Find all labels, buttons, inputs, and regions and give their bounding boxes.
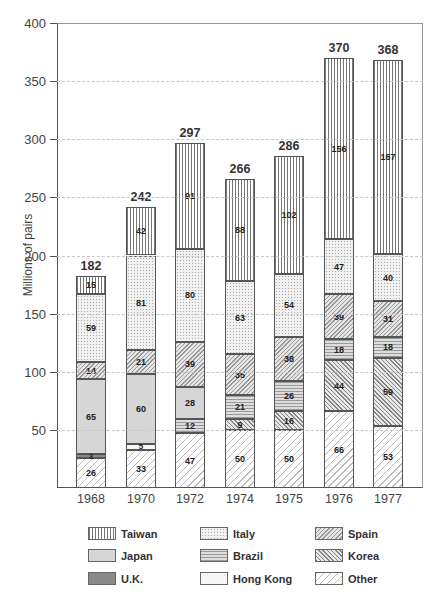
segment-value: 15 (86, 280, 96, 290)
segment-value: 31 (383, 314, 393, 324)
x-tick-label: 1968 (66, 492, 116, 506)
gridline (57, 314, 423, 315)
segment-italy: 63 (225, 281, 255, 354)
segment-taiwan: 88 (225, 179, 255, 281)
gridline (57, 197, 423, 198)
gridline (57, 139, 423, 140)
segment-other: 50 (225, 430, 255, 488)
y-tick-label: 200 (10, 248, 46, 263)
y-tick (50, 372, 57, 373)
legend-item-hong-kong: Hong Kong (200, 572, 292, 585)
segment-value: 33 (136, 464, 146, 474)
gridline (57, 256, 423, 257)
segment-hong-kong: 5 (126, 444, 156, 450)
segment-value: 38 (284, 354, 294, 364)
segment-japan: 28 (175, 387, 205, 420)
bar-total: 266 (215, 162, 265, 176)
legend-swatch (200, 527, 228, 540)
segment-value: 66 (334, 445, 344, 455)
segment-value: 21 (235, 402, 245, 412)
legend-label: Korea (348, 550, 379, 562)
y-tick-label: 250 (10, 190, 46, 205)
segment-value: 18 (383, 342, 393, 352)
y-tick (50, 197, 57, 198)
legend-swatch (88, 572, 116, 585)
segment-value: 21 (136, 357, 146, 367)
y-tick-label: 300 (10, 132, 46, 147)
segment-italy: 40 (373, 254, 403, 301)
segment-brazil: 26 (274, 381, 304, 411)
segment-taiwan: 42 (126, 207, 156, 256)
bar-1972: 4712283980912971972 (175, 0, 205, 603)
y-tick (50, 430, 57, 431)
segment-value: 28 (185, 398, 195, 408)
bar-1974: 509213563882661974 (225, 0, 255, 603)
segment-value: 60 (136, 404, 146, 414)
bar-total: 297 (165, 126, 215, 140)
segment-value: 65 (86, 412, 96, 422)
segment-spain: 31 (373, 301, 403, 337)
bar-1977: 53591831401673681977 (373, 0, 403, 603)
segment-value: 59 (86, 323, 96, 333)
x-tick-label: 1976 (314, 492, 364, 506)
segment-other: 33 (126, 450, 156, 488)
gridline (57, 372, 423, 373)
segment-value: 80 (185, 290, 195, 300)
x-tick-label: 1972 (165, 492, 215, 506)
legend-item-korea: Korea (315, 549, 379, 562)
legend-item-italy: Italy (200, 527, 255, 540)
legend-label: Italy (233, 528, 255, 540)
segment-value: 42 (136, 226, 146, 236)
legend-swatch (315, 527, 343, 540)
segment-spain: 39 (175, 342, 205, 387)
segment-italy: 47 (324, 239, 354, 294)
bar-1975: 50162638541022861975 (274, 0, 304, 603)
bar-total: 370 (314, 41, 364, 55)
segment-korea: 44 (324, 360, 354, 411)
segment-u-k: 3 (76, 454, 106, 457)
segment-italy: 81 (126, 256, 156, 350)
segment-value: 167 (380, 152, 395, 162)
segment-value: 9 (237, 420, 242, 430)
y-tick (50, 314, 57, 315)
legend-item-other: Other (315, 572, 377, 585)
segment-value: 26 (284, 391, 294, 401)
legend-item-u-k: U.K. (88, 572, 143, 585)
segment-taiwan: 91 (175, 143, 205, 249)
segment-value: 54 (284, 300, 294, 310)
segment-spain: 35 (225, 354, 255, 395)
legend-swatch (88, 549, 116, 562)
y-tick-label: 100 (10, 364, 46, 379)
segment-italy: 80 (175, 249, 205, 342)
bar-total: 182 (66, 259, 116, 273)
segment-korea: 9 (225, 419, 255, 429)
segment-value: 47 (185, 456, 195, 466)
segment-other: 66 (324, 411, 354, 488)
segment-value: 26 (86, 468, 96, 478)
segment-brazil: 18 (373, 337, 403, 358)
legend-item-taiwan: Taiwan (88, 527, 157, 540)
segment-value: 91 (185, 191, 195, 201)
segment-value: 18 (334, 345, 344, 355)
bar-total: 286 (264, 139, 314, 153)
y-tick-label: 50 (10, 422, 46, 437)
legend-swatch (315, 549, 343, 562)
y-tick-label: 150 (10, 306, 46, 321)
legend-label: Taiwan (121, 528, 157, 540)
segment-brazil: 21 (225, 395, 255, 419)
segment-spain: 14 (76, 362, 106, 378)
legend-label: Japan (121, 550, 153, 562)
legend-swatch (200, 549, 228, 562)
segment-italy: 59 (76, 294, 106, 363)
bar-1976: 66441839471563701976 (324, 0, 354, 603)
legend-item-japan: Japan (88, 549, 153, 562)
y-tick (50, 23, 57, 24)
segment-italy: 54 (274, 274, 304, 337)
legend-label: U.K. (121, 573, 143, 585)
segment-value: 88 (235, 225, 245, 235)
legend-swatch (88, 527, 116, 540)
legend-label: Hong Kong (233, 573, 292, 585)
segment-value: 50 (284, 454, 294, 464)
segment-taiwan: 156 (324, 58, 354, 239)
segment-spain: 21 (126, 350, 156, 374)
